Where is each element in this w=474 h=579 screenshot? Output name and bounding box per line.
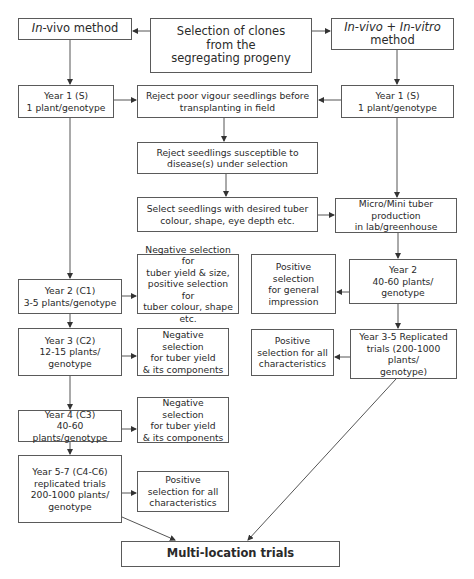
node-label: Multi-location trials [167,548,294,560]
node-label: In-vivo method [32,22,118,36]
node-root-selection-of-clones: Selection of clones from the segregating… [150,18,312,73]
node-label: Year 1 (S) 1 plant/genotype [27,90,106,113]
node-label: Positive selection for all characteristi… [148,474,219,509]
node-negative-selection-c2: Negative selection for tuber yield & its… [137,328,229,376]
italic-text: In [32,21,43,35]
node-right-year2: Year 2 40-60 plants/ genotype [349,259,457,304]
node-in-vivo-in-vitro-method: In-vivo + In-vitro method [331,18,454,50]
node-label: Reject poor vigour seedlings before tran… [146,90,309,113]
node-left-year2: Year 2 (C1) 3-5 plants/genotype [18,279,122,314]
node-in-vivo-method: In-vivo method [18,18,132,40]
node-reject-poor-vigour: Reject poor vigour seedlings before tran… [137,85,318,118]
node-label: Positive selection for general impressio… [255,261,332,307]
node-multi-location-trials: Multi-location trials [121,541,340,567]
node-label: Positive selection for all characteristi… [257,335,328,370]
node-label: Reject seedlings susceptible to disease(… [156,147,298,170]
node-right-year1: Year 1 (S) 1 plant/genotype [341,85,454,118]
italic-text: In-vivo [344,20,383,34]
node-right-year3-5: Year 3-5 Replicated trials (200-1000 pla… [350,329,457,379]
node-label: Select seedlings with desired tuber colo… [147,203,309,226]
node-label: Year 2 40-60 plants/ genotype [373,264,434,299]
node-left-year3: Year 3 (C2) 12-15 plants/ genotype [18,328,122,376]
node-label: Negative selection for tuber yield & its… [141,397,225,443]
node-positive-all-right: Positive selection for all characteristi… [251,329,334,376]
node-label: Year 4 (C3) 40-60 plants/genotype [22,409,118,444]
plain-text: + [383,20,400,34]
plain-text: -vivo method [42,21,118,35]
node-label: Negative selection for tuber yield & its… [141,329,225,375]
italic-text: In-vitro [400,20,441,34]
node-label-line2: method [370,34,414,48]
node-positive-general-impression: Positive selection for general impressio… [251,254,336,314]
node-negative-selection-c3: Negative selection for tuber yield & its… [137,397,229,443]
node-micro-mini-tuber: Micro/Mini tuber production in lab/green… [335,198,457,233]
node-select-desired-tuber: Select seedlings with desired tuber colo… [137,197,318,232]
node-label: Year 3 (C2) 12-15 plants/ genotype [40,335,101,370]
node-label: Selection of clones from the segregating… [171,25,291,66]
node-label-line1: In-vivo + In-vitro [344,21,441,35]
node-label: Year 5-7 (C4-C6) replicated trials 200-1… [31,466,109,512]
node-left-year4: Year 4 (C3) 40-60 plants/genotype [18,410,122,442]
node-label: Negative selection for tuber yield & siz… [141,244,235,325]
node-reject-susceptible: Reject seedlings susceptible to disease(… [137,142,318,174]
node-left-year5-7: Year 5-7 (C4-C6) replicated trials 200-1… [18,455,122,523]
node-label: Micro/Mini tuber production in lab/green… [339,198,453,233]
node-left-year1: Year 1 (S) 1 plant/genotype [18,85,114,118]
node-label: Year 1 (S) 1 plant/genotype [358,90,437,113]
node-positive-all-left: Positive selection for all characteristi… [137,471,229,512]
node-label: Year 2 (C1) 3-5 plants/genotype [24,285,117,308]
node-negative-selection-c1: Negative selection for tuber yield & siz… [137,254,239,314]
node-label: Year 3-5 Replicated trials (200-1000 pla… [354,331,453,377]
